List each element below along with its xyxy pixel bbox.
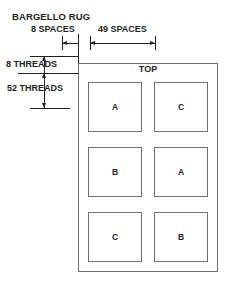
rug-block: A <box>154 147 208 197</box>
rug-block: C <box>154 82 208 132</box>
rug-block: C <box>88 212 142 262</box>
block-grid: A C B A C B <box>88 82 208 262</box>
dimension-label-top-right: 49 SPACES <box>98 25 147 34</box>
witness-line-v-1 <box>30 56 78 57</box>
dimension-label-left-lower: 52 THREADS <box>0 84 70 93</box>
witness-line-v-2 <box>18 73 78 74</box>
rug-block: B <box>88 147 142 197</box>
bargello-rug-diagram: BARGELLO RUG 8 SPACES 49 SPACES 8 THREAD… <box>0 0 230 285</box>
arrowhead-left-49-spaces <box>90 41 95 45</box>
rug-block: B <box>154 212 208 262</box>
arrowhead-up-52-threads <box>42 73 46 78</box>
dimension-line-49-spaces <box>90 43 155 44</box>
diagram-title: BARGELLO RUG <box>12 12 90 22</box>
rug-top-label: TOP <box>78 65 218 74</box>
witness-line-v-3 <box>30 108 70 109</box>
rug-block: A <box>88 82 142 132</box>
arrowhead-up-8-threads <box>42 56 46 61</box>
arrowhead-down-52-threads <box>42 103 46 108</box>
arrowhead-right-49-spaces <box>150 41 155 45</box>
dimension-label-top-left: 8 SPACES <box>31 25 75 34</box>
witness-line-h-4 <box>155 36 156 50</box>
witness-line-h-2 <box>78 34 79 63</box>
arrowhead-left-8-spaces <box>62 41 67 45</box>
dimension-label-left-upper: 8 THREADS <box>6 60 57 69</box>
